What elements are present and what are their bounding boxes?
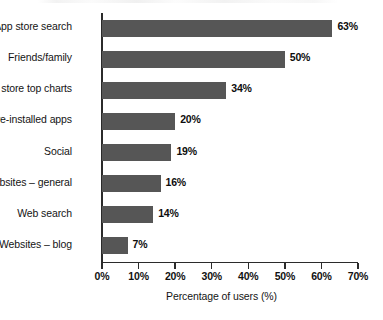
- bar-group: Pre-installed apps20%: [102, 106, 358, 137]
- bar-value-label: 63%: [337, 20, 357, 32]
- x-axis-tick-label: 70%: [348, 270, 368, 282]
- category-label: App store top charts: [0, 82, 72, 94]
- bar[interactable]: [102, 175, 161, 192]
- bar-group: Friends/family50%: [102, 44, 358, 75]
- bar-value-label: 16%: [166, 176, 186, 188]
- cropped-title-artifact: [38, 0, 338, 3]
- category-label: Web search: [17, 207, 72, 219]
- bar-value-label: 34%: [231, 82, 251, 94]
- x-axis-tick: [321, 263, 322, 269]
- plot-area: App store search63%Friends/family50%App …: [102, 13, 358, 262]
- x-axis-tick-label: 20%: [165, 270, 185, 282]
- bar-value-label: 19%: [176, 145, 196, 157]
- bar-group: Social19%: [102, 138, 358, 169]
- bar[interactable]: [102, 237, 128, 254]
- bar-group: Web search14%: [102, 200, 358, 231]
- bar-group: App store search63%: [102, 13, 358, 44]
- bar[interactable]: [102, 144, 171, 161]
- bar-group: Websites – general16%: [102, 169, 358, 200]
- x-axis-tick: [101, 263, 102, 269]
- bar[interactable]: [102, 20, 332, 37]
- bar-chart: App store search63%Friends/family50%App …: [0, 0, 383, 320]
- x-axis-title: Percentage of users (%): [0, 290, 383, 302]
- category-label: Websites – general: [0, 176, 72, 188]
- bar-value-label: 50%: [290, 51, 310, 63]
- category-label: Pre-installed apps: [0, 113, 72, 125]
- bar[interactable]: [102, 206, 153, 223]
- bar-value-label: 14%: [158, 207, 178, 219]
- x-axis-tick: [248, 263, 249, 269]
- bar-value-label: 7%: [133, 238, 148, 250]
- bar[interactable]: [102, 113, 175, 130]
- x-axis-tick-label: 0%: [95, 270, 110, 282]
- x-axis-tick: [284, 263, 285, 269]
- x-axis-tick: [211, 263, 212, 269]
- x-axis-tick-label: 10%: [128, 270, 148, 282]
- x-axis-tick-label: 60%: [311, 270, 331, 282]
- x-axis-tick-label: 50%: [275, 270, 295, 282]
- bar-group: App store top charts34%: [102, 75, 358, 106]
- x-axis-title-text: Percentage of users (%): [166, 290, 277, 302]
- x-axis-tick: [357, 263, 358, 269]
- category-label: Websites – blog: [0, 238, 72, 250]
- x-axis-tick: [174, 263, 175, 269]
- bar-group: Websites – blog7%: [102, 231, 358, 262]
- bar-value-label: 20%: [180, 113, 200, 125]
- bar[interactable]: [102, 51, 285, 68]
- x-axis-tick: [138, 263, 139, 269]
- bar[interactable]: [102, 82, 226, 99]
- x-axis-tick-label: 30%: [201, 270, 221, 282]
- category-label: Social: [44, 145, 72, 157]
- category-label: App store search: [0, 20, 72, 32]
- x-axis-tick-label: 40%: [238, 270, 258, 282]
- category-label: Friends/family: [8, 51, 72, 63]
